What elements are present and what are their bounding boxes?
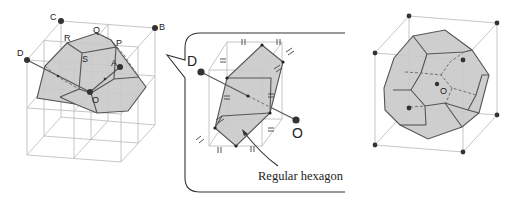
label-O: O	[92, 95, 99, 105]
point-C	[58, 18, 64, 24]
callout-label-O: O	[292, 125, 303, 141]
label-D: D	[17, 48, 24, 58]
label-B: B	[159, 22, 165, 32]
midpoint-OA	[104, 78, 107, 81]
point-B	[152, 25, 158, 31]
label-A: A	[111, 58, 117, 68]
right-label-O: O	[440, 86, 447, 96]
left-panel: C B D A O R Q P S	[17, 12, 165, 162]
point-A	[117, 64, 123, 70]
midpoint-DO	[57, 75, 60, 78]
center-point	[435, 82, 439, 86]
caption-regular-hexagon: Regular hexagon	[258, 169, 344, 183]
label-S: S	[82, 54, 88, 64]
label-C: C	[50, 12, 57, 22]
callout-label-D: D	[187, 53, 197, 69]
label-R: R	[64, 33, 71, 43]
callout-point-D	[197, 68, 204, 75]
middle-panel-callout: D O Regular hexagon	[167, 33, 345, 192]
point-D	[24, 57, 30, 63]
label-Q: Q	[93, 25, 100, 35]
callout-point-O	[292, 116, 299, 123]
right-panel: O	[373, 14, 500, 155]
figure-canvas: C B D A O R Q P S	[0, 0, 518, 206]
label-P: P	[116, 38, 122, 48]
